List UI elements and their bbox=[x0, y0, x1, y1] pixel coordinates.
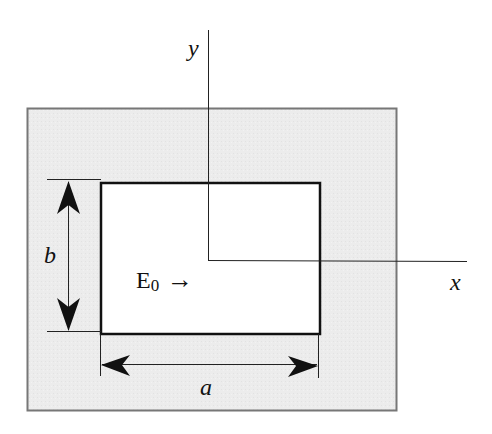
y-axis-label: y bbox=[186, 35, 199, 61]
height-label: b bbox=[44, 242, 56, 268]
field-arrow-icon: → bbox=[167, 265, 193, 294]
width-label: a bbox=[200, 374, 212, 400]
field-subscript: 0 bbox=[151, 276, 160, 295]
x-axis-label: x bbox=[449, 269, 461, 295]
field-symbol: E bbox=[136, 267, 151, 293]
inner-rectangle bbox=[101, 183, 320, 334]
waveguide-diagram: y x b a E0 → bbox=[0, 0, 492, 434]
